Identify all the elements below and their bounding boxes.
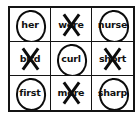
grid-cell[interactable]: first	[10, 76, 51, 110]
grid-cell[interactable]: sharp	[92, 76, 133, 110]
worksheet-image: her were nurse bird curl short first	[0, 0, 140, 118]
cell-word: short	[99, 54, 126, 64]
grid-cell[interactable]: curl	[51, 42, 92, 76]
grid-cell[interactable]: bird	[10, 42, 51, 76]
cell-word: curl	[61, 54, 81, 64]
word-grid: her were nurse bird curl short first	[8, 6, 135, 112]
grid-cell[interactable]: short	[92, 42, 133, 76]
grid-cell[interactable]: her	[10, 8, 51, 42]
cell-word: were	[58, 20, 84, 30]
cell-word: sharp	[98, 88, 127, 98]
cell-word: bird	[20, 54, 41, 64]
cell-word: her	[21, 20, 38, 30]
cell-word: nurse	[98, 20, 127, 30]
cell-word: more	[58, 88, 85, 98]
grid-cell[interactable]: more	[51, 76, 92, 110]
cell-word: first	[19, 88, 40, 98]
grid-cell[interactable]: nurse	[92, 8, 133, 42]
grid-cell[interactable]: were	[51, 8, 92, 42]
